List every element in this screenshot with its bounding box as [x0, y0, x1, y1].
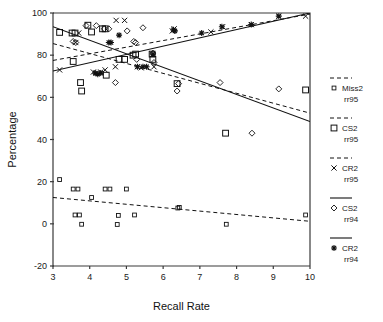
cropped-header-remnant [0, 0, 383, 7]
legend-label-name: CS2 [342, 124, 358, 133]
y-tick-label: 60 [37, 93, 47, 103]
x-tick-label: 5 [124, 272, 129, 282]
y-tick-label: 20 [37, 177, 47, 187]
legend-label-series: rr95 [344, 95, 359, 104]
x-tick-label: 7 [197, 272, 202, 282]
x-tick-label: 8 [234, 272, 239, 282]
y-tick-label: 40 [37, 135, 47, 145]
legend-entry-cs2-rr94[interactable]: CS2rr94 [330, 198, 359, 224]
x-tick-label: 10 [305, 272, 315, 282]
x-tick-label: 3 [50, 272, 55, 282]
y-tick-label: 80 [37, 50, 47, 60]
legend-label-series: rr94 [344, 255, 359, 264]
plot-frame [53, 13, 310, 266]
x-tick-label: 6 [161, 272, 166, 282]
y-tick-label: 100 [32, 8, 47, 18]
scatter-plot-canvas: 100806040200-20345678910Recall RatePerce… [0, 0, 383, 322]
legend-label-name: Miss2 [342, 84, 363, 93]
series-cs2-rr95 [53, 22, 310, 136]
legend-label-series: rr95 [344, 135, 359, 144]
trend-line [53, 14, 310, 60]
trend-line [53, 44, 310, 114]
legend-label-name: CR2 [342, 164, 359, 173]
series-cr2-rr94 [53, 13, 310, 77]
legend-label-series: rr95 [344, 175, 359, 184]
axis-lines [53, 13, 310, 266]
trend-line [53, 13, 310, 71]
y-tick-label: -20 [34, 261, 47, 271]
legend-entry-miss2-rr95[interactable]: Miss2rr95 [330, 78, 363, 104]
y-axis-title: Percentage [6, 111, 18, 167]
series-cr2-rr95 [53, 14, 310, 76]
legend-label-series: rr94 [344, 215, 359, 224]
x-tick-label: 9 [271, 272, 276, 282]
chart-figure: 100806040200-20345678910Recall RatePerce… [0, 0, 383, 322]
legend-entry-cs2-rr95[interactable]: CS2rr95 [330, 118, 359, 144]
x-tick-label: 4 [87, 272, 92, 282]
y-tick-label: 0 [42, 219, 47, 229]
legend-entry-cr2-rr94[interactable]: CR2rr94 [330, 238, 359, 264]
x-axis-title: Recall Rate [153, 300, 210, 312]
legend-entry-cr2-rr95[interactable]: CR2rr95 [330, 158, 359, 184]
series-miss2-rr95 [53, 178, 310, 227]
legend-label-name: CR2 [342, 244, 359, 253]
series-cs2-rr94 [53, 23, 310, 137]
legend-label-name: CS2 [342, 204, 358, 213]
